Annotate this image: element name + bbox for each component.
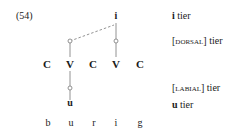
tier-label-u: u tier: [172, 100, 193, 110]
skeleton-slot: C: [43, 59, 51, 70]
orthography-letter: i: [115, 118, 118, 128]
tier-label-dorsal: [dorsal] tier: [172, 36, 223, 46]
u-symbol: u: [67, 98, 73, 108]
skeleton-slot: V: [66, 59, 74, 70]
dorsal-node-2: [114, 39, 118, 43]
orthography-letter: b: [46, 118, 51, 128]
labial-node: [68, 86, 72, 90]
dorsal-node-1: [68, 39, 72, 43]
skeleton-slot: C: [89, 59, 97, 70]
example-number: (54): [16, 11, 33, 21]
orthography-letter: u: [69, 118, 74, 128]
i-symbol: i: [115, 11, 118, 21]
tier-label-labial: [labial] tier: [172, 83, 220, 93]
orthography-letter: r: [92, 118, 95, 128]
orthography-letter: g: [138, 118, 143, 128]
skeleton-slot: C: [136, 59, 144, 70]
skeleton-slot: V: [112, 59, 120, 70]
dashed-association-line: [70, 25, 114, 41]
association-lines: [0, 0, 245, 140]
tier-label-i: i tier: [172, 11, 191, 21]
